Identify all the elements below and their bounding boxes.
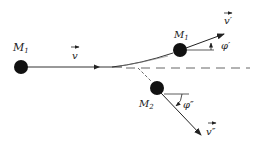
collision-diagram: M1 v M1 φ′ v′ M2 φ″ v″ [0, 0, 261, 143]
direction-arrow-icon [94, 65, 100, 70]
mass-m2 [150, 81, 164, 95]
angle-arc-phi-double-prime [176, 94, 182, 106]
velocity-v-double-prime-label: v″ [206, 126, 216, 137]
mass-m1-initial [14, 60, 28, 74]
deflection-path-m1 [112, 53, 173, 67]
velocity-v-prime-label: v′ [224, 15, 233, 26]
angle-phi-double-prime-label: φ″ [183, 99, 194, 110]
velocity-v-prime-arrow [186, 34, 224, 48]
incoming-path [27, 65, 122, 70]
mass-m2-label: M2 [138, 98, 154, 111]
angle-phi-prime-label: φ′ [221, 40, 231, 51]
mass-m1-final-label: M1 [173, 29, 189, 42]
mass-m1-initial-label: M1 [12, 41, 29, 55]
mass-m1-final [173, 43, 187, 57]
recoil-path-m2 [138, 68, 152, 82]
velocity-v-label: v [72, 50, 78, 61]
